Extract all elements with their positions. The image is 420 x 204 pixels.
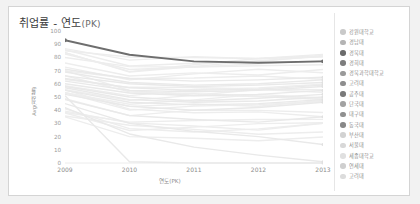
legend-item-label: 연세대 <box>349 161 364 171</box>
legend-item-label: 고려대 <box>349 171 364 181</box>
legend-item[interactable]: 대구대 <box>340 109 408 119</box>
legend-color-dot-icon <box>340 81 346 87</box>
legend-item[interactable]: 세종대학교 <box>340 151 408 161</box>
data-point-marker[interactable] <box>322 81 324 84</box>
legend-item-label: 서울대 <box>349 140 364 150</box>
legend-item-label: 단국대 <box>349 99 364 109</box>
y-tick-label: 80 <box>31 54 61 60</box>
legend-color-dot-icon <box>340 29 346 35</box>
legend-color-dot-icon <box>340 132 346 138</box>
legend-item-label: 강원대학교 <box>349 27 374 37</box>
data-point-marker[interactable] <box>322 115 324 118</box>
legend-item[interactable]: 서울대 <box>340 140 408 150</box>
y-tick-label: 100 <box>31 28 61 34</box>
y-tick-label: 40 <box>31 107 61 113</box>
legend-color-dot-icon <box>340 122 346 128</box>
legend-color-dot-icon <box>340 60 346 66</box>
y-tick-label: 70 <box>31 68 61 74</box>
legend-item[interactable]: 경희대 <box>340 58 408 68</box>
legend-item[interactable]: 단국대 <box>340 99 408 109</box>
legend-item-label: 경희대 <box>349 58 364 68</box>
legend-color-dot-icon <box>340 143 346 149</box>
y-tick-label: 30 <box>31 120 61 126</box>
y-tick-label: 60 <box>31 81 61 87</box>
legend-item[interactable]: 부산대 <box>340 130 408 140</box>
legend-color-dot-icon <box>340 50 346 56</box>
data-point-marker[interactable] <box>322 93 324 96</box>
legend-item-label: 공주대 <box>349 89 364 99</box>
legend-item-label: 세종대학교 <box>349 151 374 161</box>
y-tick-label: 90 <box>31 41 61 47</box>
legend-item-label: 경남대 <box>349 37 364 47</box>
y-axis-ticks: 1009080706050403020100 <box>31 31 61 163</box>
legend-item[interactable]: 공주대 <box>340 89 408 99</box>
legend-item-label: 경북대 <box>349 48 364 58</box>
legend-item[interactable]: 경북과학대학교 <box>340 68 408 78</box>
legend-item[interactable]: 강원대학교 <box>340 27 408 37</box>
data-point-marker[interactable] <box>322 76 324 79</box>
data-point-marker[interactable] <box>322 143 324 146</box>
page-title-sub: (PK) <box>82 19 101 29</box>
legend-item[interactable]: 경북대 <box>340 48 408 58</box>
legend-color-dot-icon <box>340 71 346 77</box>
legend-item-label: 경북과학대학교 <box>349 68 384 78</box>
legend-item-label: 대구대 <box>349 109 364 119</box>
legend-color-dot-icon <box>340 163 346 169</box>
y-tick-label: 10 <box>31 147 61 153</box>
plot-area: Avg(취업률) 1009080706050403020100 20092010… <box>9 31 331 196</box>
y-tick-label: 20 <box>31 134 61 140</box>
legend-color-dot-icon <box>340 112 346 118</box>
legend: 강원대학교경남대경북대경희대경북과학대학교고려대공주대단국대대구대동국대부산대서… <box>340 27 408 181</box>
legend-color-dot-icon <box>340 91 346 97</box>
legend-item[interactable]: 경남대 <box>340 37 408 47</box>
visualization-card: 취업률 - 연도(PK) Avg(취업률) 100908070605040302… <box>8 6 410 196</box>
legend-item-label: 부산대 <box>349 130 364 140</box>
legend-divider <box>334 13 335 191</box>
legend-color-dot-icon <box>340 40 346 46</box>
y-tick-label: 50 <box>31 94 61 100</box>
x-axis-title: 연도(PK) <box>9 177 331 185</box>
legend-item[interactable]: 고려대 <box>340 78 408 88</box>
legend-color-dot-icon <box>340 174 346 180</box>
legend-item[interactable]: 동국대 <box>340 120 408 130</box>
legend-color-dot-icon <box>340 153 346 159</box>
legend-item-label: 고려대 <box>349 78 364 88</box>
legend-item[interactable]: 연세대 <box>340 161 408 171</box>
legend-color-dot-icon <box>340 101 346 107</box>
legend-item-label: 동국대 <box>349 120 364 130</box>
line-chart-svg[interactable] <box>65 31 323 171</box>
legend-item[interactable]: 고려대 <box>340 171 408 181</box>
